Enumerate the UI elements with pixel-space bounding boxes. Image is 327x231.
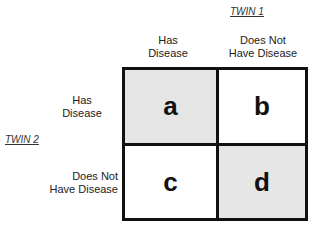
cell-c: c [125,146,216,218]
row-header-has-disease: Has Disease [52,94,112,120]
column-header-line2: Have Disease [218,47,308,60]
horizontal-divider [125,143,305,146]
twin2-label: TWIN 2 [5,134,39,145]
cell-b: b [219,70,305,143]
cell-a: a [125,70,216,143]
row-header-no-disease: Does Not Have Disease [30,170,118,196]
column-header-line1: Has [135,34,201,47]
column-header-has-disease: Has Disease [135,34,201,60]
row-header-line2: Have Disease [30,183,118,196]
column-header-line2: Disease [135,47,201,60]
twin1-label: TWIN 1 [230,6,264,17]
row-header-line2: Disease [52,107,112,120]
column-header-no-disease: Does Not Have Disease [218,34,308,60]
column-header-line1: Does Not [218,34,308,47]
cell-d: d [219,146,305,218]
row-header-line1: Does Not [30,170,118,183]
row-header-line1: Has [52,94,112,107]
contingency-table: a b c d [122,67,308,221]
